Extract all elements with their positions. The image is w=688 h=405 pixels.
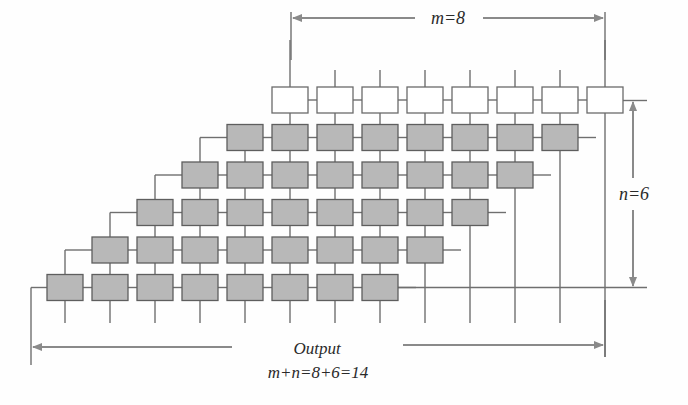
processing-cell [362,200,398,226]
processing-cell [362,125,398,151]
processing-cell [272,200,308,226]
processing-cell [362,275,398,301]
processing-cell [92,237,128,263]
processing-cell [407,237,443,263]
processing-cell [272,125,308,151]
m-dimension-label: m=8 [427,8,469,29]
processing-cell [452,125,488,151]
processing-cell [182,275,218,301]
processing-cell [137,275,173,301]
processing-cell [137,237,173,263]
n-dimension-label: n=6 [615,184,653,205]
input-cell [542,87,578,113]
processing-cell [317,125,353,151]
processing-cell [407,162,443,188]
processing-cell [497,125,533,151]
diagram-canvas: m=8 n=6 Output m+n=8+6=14 [0,0,688,405]
processing-cell [272,162,308,188]
processing-cell [182,200,218,226]
output-formula-label: m+n=8+6=14 [264,363,373,383]
processing-cell [227,162,263,188]
input-cell [272,87,308,113]
processing-cell [317,200,353,226]
output-label: Output [289,339,344,359]
input-cell [317,87,353,113]
processing-cell [317,275,353,301]
processing-cell [362,237,398,263]
processing-cell [227,125,263,151]
processing-cell [407,200,443,226]
processing-cell [227,200,263,226]
processing-cell [227,237,263,263]
input-cell [497,87,533,113]
processing-cell [272,275,308,301]
input-cell [407,87,443,113]
processing-cell [137,200,173,226]
processing-cell [47,275,83,301]
processing-cell [452,162,488,188]
processing-cell [317,162,353,188]
processing-cell [92,275,128,301]
processing-cell [182,237,218,263]
processing-cell [227,275,263,301]
input-cell [362,87,398,113]
processing-cell [407,125,443,151]
processing-cell [182,162,218,188]
processing-cell [497,162,533,188]
processing-cell [362,162,398,188]
processing-cell [272,237,308,263]
processing-cell [452,200,488,226]
input-cell [587,87,623,113]
input-cell [452,87,488,113]
processing-cell [542,125,578,151]
processing-cell [317,237,353,263]
